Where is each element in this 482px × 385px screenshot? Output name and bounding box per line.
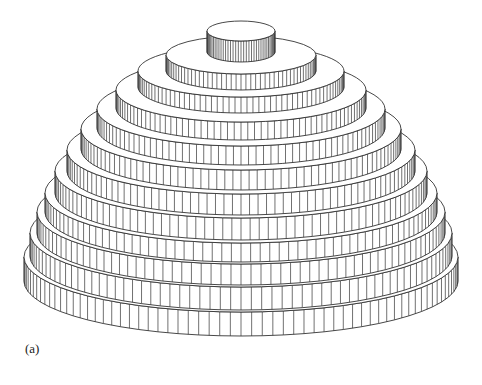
dome-tier: [207, 21, 275, 62]
dome-figure: [0, 0, 482, 385]
figure-caption-label: (a): [25, 341, 39, 357]
